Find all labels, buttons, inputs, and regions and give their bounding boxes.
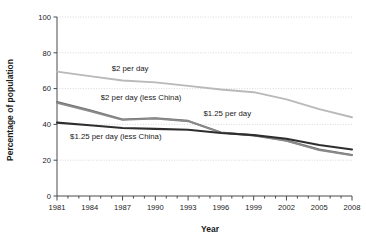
x-tick-label: 1999	[245, 203, 262, 212]
x-tick-marks-group	[57, 196, 352, 201]
y-tick-label: 0	[47, 192, 51, 201]
y-tick-label: 60	[43, 84, 51, 93]
y-tick-marks-group	[54, 17, 58, 196]
series-label-3: $1.25 per day	[203, 109, 251, 118]
series-label-1: $2 per day	[112, 64, 149, 73]
x-axis-title: Year	[201, 224, 220, 234]
y-tick-label: 40	[43, 120, 51, 129]
x-tick-label: 1981	[49, 203, 66, 212]
x-tick-label: 1993	[180, 203, 197, 212]
x-tick-label: 1990	[147, 203, 164, 212]
y-tick-labels-group: 020406080100	[38, 13, 51, 201]
chart-container: 020406080100 198119841987199019931996199…	[0, 0, 366, 239]
line-chart: 020406080100 198119841987199019931996199…	[0, 0, 366, 239]
series-label-2: $2 per day (less China)	[101, 93, 182, 102]
y-axis-title: Percentage of population	[5, 59, 15, 161]
x-tick-label: 2008	[344, 203, 361, 212]
y-tick-label: 20	[43, 156, 51, 165]
x-tick-labels-group: 1981198419871990199319961999200220052008	[49, 203, 361, 212]
x-tick-label: 1996	[212, 203, 229, 212]
series-label-4: $1.25 per day (less China)	[70, 132, 162, 141]
y-tick-label: 80	[43, 49, 51, 58]
y-tick-label: 100	[38, 13, 51, 22]
x-tick-label: 2002	[278, 203, 295, 212]
x-tick-label: 2005	[311, 203, 328, 212]
x-tick-label: 1984	[81, 203, 98, 212]
x-tick-label: 1987	[114, 203, 131, 212]
